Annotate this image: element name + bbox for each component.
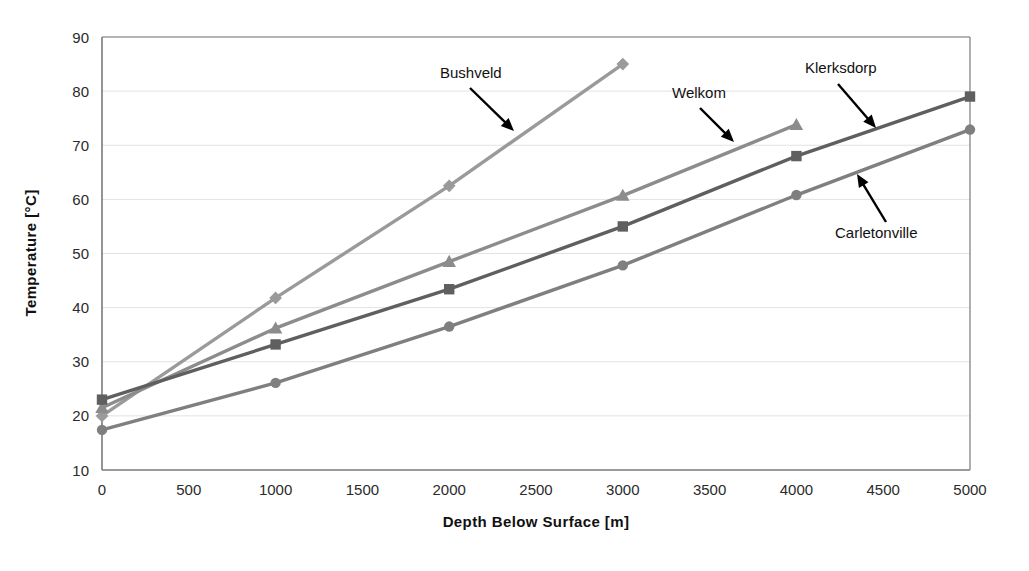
y-axis-title: Temperature [°C]: [22, 189, 39, 316]
x-tick-label-1500: 1500: [346, 481, 379, 498]
x-axis-title: Depth Below Surface [m]: [443, 513, 630, 530]
annotation-label-carletonville: Carletonville: [835, 224, 918, 241]
series-marker-carletonville-3000: [618, 260, 628, 270]
series-marker-klerksdorp-1000: [270, 339, 280, 349]
series-marker-carletonville-4000: [791, 190, 801, 200]
y-tick-label-10: 10: [72, 462, 89, 479]
y-axis-tick-labels: 102030405060708090: [72, 29, 89, 479]
series-marker-klerksdorp-5000: [965, 91, 975, 101]
series-marker-carletonville-5000: [965, 124, 975, 134]
series-marker-carletonville-0: [97, 425, 107, 435]
x-tick-label-0: 0: [98, 481, 106, 498]
chart-container: 0500100015002000250030003500400045005000…: [0, 0, 1029, 571]
x-tick-label-3500: 3500: [693, 481, 726, 498]
x-tick-label-5000: 5000: [953, 481, 986, 498]
annotation-label-welkom: Welkom: [672, 84, 726, 101]
series-marker-klerksdorp-0: [97, 394, 107, 404]
y-tick-label-80: 80: [72, 83, 89, 100]
x-tick-label-500: 500: [176, 481, 201, 498]
x-tick-label-2500: 2500: [519, 481, 552, 498]
x-tick-label-2000: 2000: [433, 481, 466, 498]
x-tick-label-4500: 4500: [867, 481, 900, 498]
series-marker-klerksdorp-2000: [444, 284, 454, 294]
x-tick-label-3000: 3000: [606, 481, 639, 498]
series-marker-klerksdorp-3000: [618, 221, 628, 231]
x-tick-label-1000: 1000: [259, 481, 292, 498]
y-tick-label-20: 20: [72, 407, 89, 424]
y-tick-label-90: 90: [72, 29, 89, 46]
y-tick-label-40: 40: [72, 299, 89, 316]
series-marker-klerksdorp-4000: [791, 151, 801, 161]
y-tick-label-30: 30: [72, 353, 89, 370]
series-marker-carletonville-1000: [270, 378, 280, 388]
annotation-label-klerksdorp: Klerksdorp: [805, 59, 877, 76]
annotation-label-bushveld: Bushveld: [440, 64, 502, 81]
x-tick-label-4000: 4000: [780, 481, 813, 498]
y-tick-label-70: 70: [72, 137, 89, 154]
series-marker-carletonville-2000: [444, 321, 454, 331]
temperature-depth-line-chart: 0500100015002000250030003500400045005000…: [0, 0, 1029, 571]
y-tick-label-60: 60: [72, 191, 89, 208]
y-tick-label-50: 50: [72, 245, 89, 262]
